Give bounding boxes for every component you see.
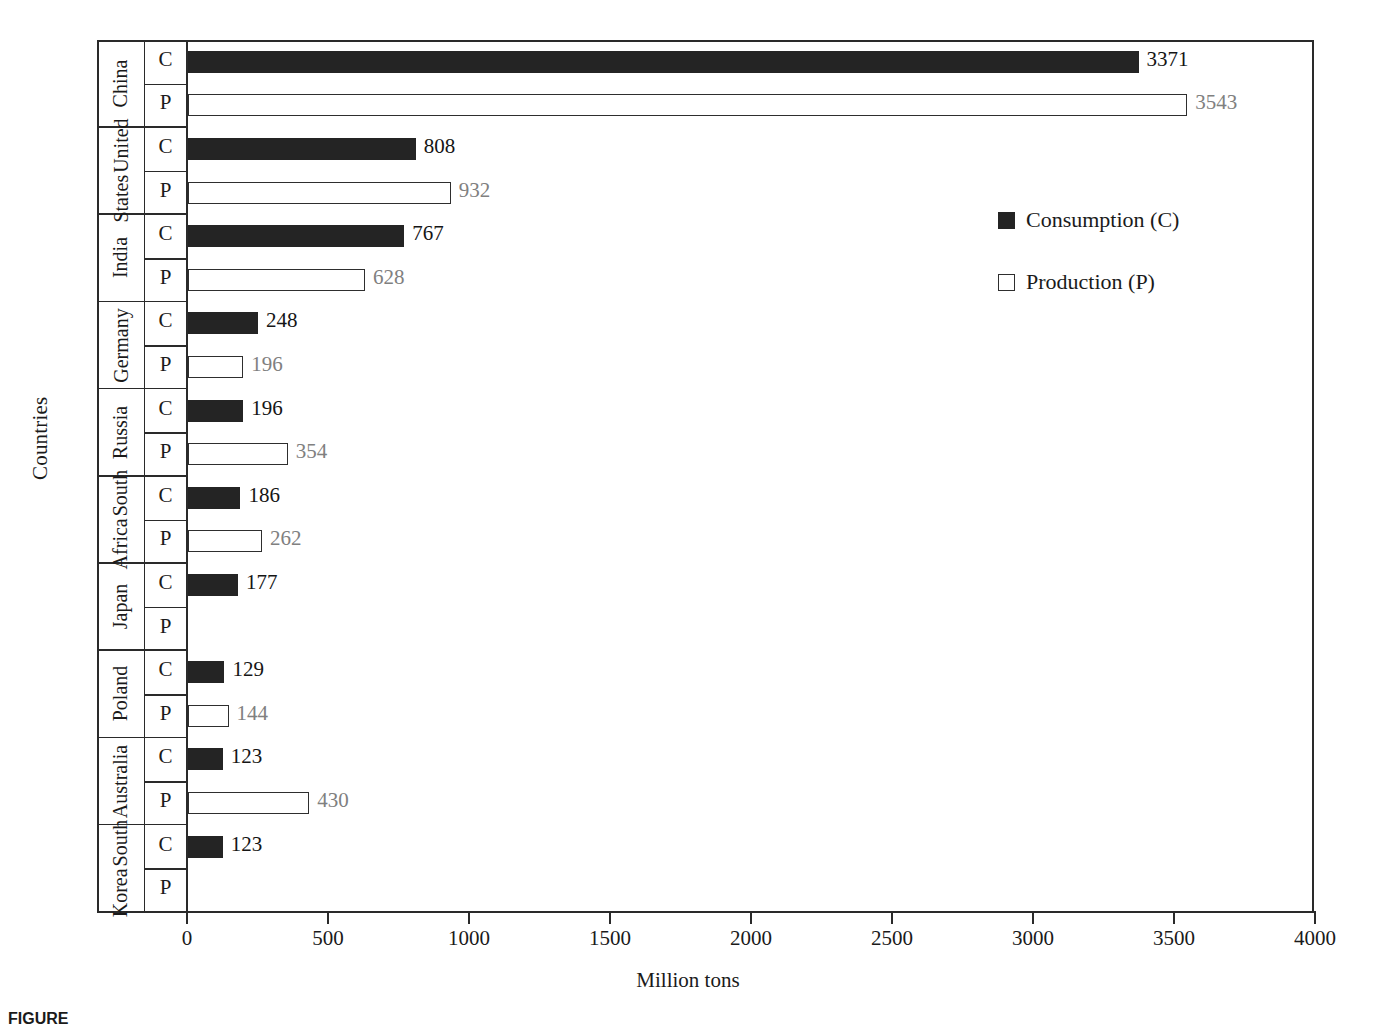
bar-value-consumption: 196 — [251, 396, 283, 421]
row-letter-c: C — [145, 483, 186, 508]
x-axis-tick — [609, 913, 611, 924]
x-axis-tick-label: 3500 — [1153, 926, 1195, 951]
x-axis-tick-label: 1000 — [448, 926, 490, 951]
row-letter-c: C — [145, 744, 186, 769]
cp-separator — [145, 607, 186, 609]
y-axis-category-label: Japan — [97, 563, 145, 650]
category-label-line: South — [111, 820, 132, 867]
cp-separator — [145, 258, 186, 260]
row-letter-p: P — [145, 265, 186, 290]
row-letter-p: P — [145, 526, 186, 551]
row-letter-p: P — [145, 352, 186, 377]
legend-item-consumption: Consumption (C) — [998, 205, 1179, 235]
row-letter-c: C — [145, 832, 186, 857]
legend-item-production: Production (P) — [998, 267, 1179, 297]
y-axis-category-label: Russia — [97, 389, 145, 476]
bar-production — [188, 705, 229, 727]
bar-value-production: 3543 — [1195, 90, 1237, 115]
bar-value-production: 262 — [270, 526, 302, 551]
x-axis-line — [97, 911, 1316, 913]
bar-value-consumption: 3371 — [1147, 47, 1189, 72]
cp-separator — [145, 84, 186, 86]
bar-production — [188, 443, 288, 465]
x-axis-tick — [1173, 913, 1175, 924]
bar-value-production: 354 — [296, 439, 328, 464]
bar-production — [188, 530, 262, 552]
y-axis-category-label: India — [97, 214, 145, 301]
figure-chart-coal-production-consumption: Countries ChinaCP33713543UnitedStatesCP8… — [0, 0, 1376, 1028]
legend-label-production: Production (P) — [1026, 269, 1155, 295]
x-axis-tick — [186, 913, 188, 924]
category-label-line: United — [111, 119, 132, 173]
bar-production — [188, 356, 243, 378]
cp-separator — [145, 520, 186, 522]
plot-frame — [186, 40, 1314, 912]
bar-value-consumption: 767 — [412, 221, 444, 246]
x-axis-tick-label: 500 — [312, 926, 344, 951]
row-letter-c: C — [145, 47, 186, 72]
bar-value-consumption: 129 — [232, 657, 264, 682]
bar-value-consumption: 123 — [231, 832, 263, 857]
bar-consumption — [188, 574, 238, 596]
row-letter-p: P — [145, 90, 186, 115]
x-axis-tick-label: 2500 — [871, 926, 913, 951]
row-letter-p: P — [145, 875, 186, 900]
y-axis-category-label: Germany — [97, 302, 145, 389]
bar-consumption — [188, 487, 240, 509]
cp-separator — [145, 345, 186, 347]
figure-caption: FIGURE — [8, 1010, 68, 1028]
x-axis-tick — [1314, 913, 1316, 924]
x-axis-title: Million tons — [0, 968, 1376, 993]
y-axis-category-label: SouthAfrica — [97, 476, 145, 563]
row-letter-c: C — [145, 308, 186, 333]
bar-value-consumption: 123 — [231, 744, 263, 769]
bar-value-production: 932 — [459, 178, 491, 203]
category-label-line: Africa — [111, 518, 132, 569]
x-axis-tick — [750, 913, 752, 924]
y-axis-category-label: China — [97, 40, 145, 127]
bar-value-production: 196 — [251, 352, 283, 377]
bar-value-consumption: 808 — [424, 134, 456, 159]
filled-square-icon — [998, 212, 1015, 229]
bar-consumption — [188, 836, 223, 858]
bar-production — [188, 182, 451, 204]
hollow-square-icon — [998, 274, 1015, 291]
bar-consumption — [188, 225, 404, 247]
row-letter-c: C — [145, 396, 186, 421]
row-letter-c: C — [145, 134, 186, 159]
legend-label-consumption: Consumption (C) — [1026, 207, 1179, 233]
chart-legend: Consumption (C) Production (P) — [998, 205, 1179, 329]
row-letter-c: C — [145, 221, 186, 246]
y-axis-category-label: Australia — [97, 738, 145, 825]
bar-consumption — [188, 661, 224, 683]
bar-consumption — [188, 51, 1139, 73]
row-letter-p: P — [145, 701, 186, 726]
row-letter-p: P — [145, 614, 186, 639]
row-letter-p: P — [145, 788, 186, 813]
cp-separator — [145, 868, 186, 870]
x-axis-tick — [327, 913, 329, 924]
row-letter-p: P — [145, 178, 186, 203]
bar-value-consumption: 177 — [246, 570, 278, 595]
bar-consumption — [188, 312, 258, 334]
bar-consumption — [188, 400, 243, 422]
y-axis-title: Countries — [28, 280, 53, 480]
row-letter-c: C — [145, 657, 186, 682]
cp-separator — [145, 781, 186, 783]
x-axis-tick-label: 1500 — [589, 926, 631, 951]
x-axis-tick-label: 3000 — [1012, 926, 1054, 951]
bar-consumption — [188, 138, 416, 160]
x-axis-tick-label: 2000 — [730, 926, 772, 951]
bar-value-consumption: 186 — [248, 483, 280, 508]
cp-separator — [145, 694, 186, 696]
y-axis-category-label: UnitedStates — [97, 127, 145, 214]
bar-production — [188, 792, 309, 814]
bar-consumption — [188, 748, 223, 770]
bar-production — [188, 94, 1187, 116]
x-axis-zero-stub — [186, 895, 188, 913]
bar-value-production: 144 — [237, 701, 269, 726]
row-letter-p: P — [145, 439, 186, 464]
x-axis-tick — [891, 913, 893, 924]
y-axis-category-label: Poland — [97, 650, 145, 737]
category-label-line: Korea — [111, 868, 132, 917]
